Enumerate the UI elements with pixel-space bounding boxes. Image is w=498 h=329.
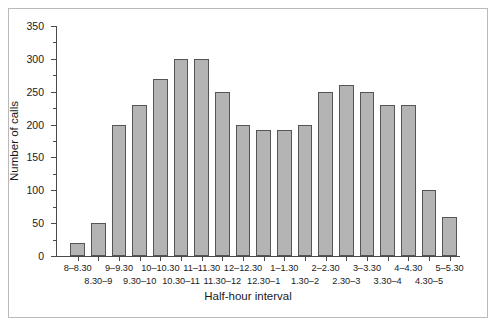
- y-tick-label: 200: [26, 119, 44, 130]
- y-tick-label: 300: [26, 54, 44, 65]
- plot-area: 050100150200250300350: [56, 26, 460, 256]
- y-tick-label: 0: [38, 251, 44, 262]
- bar: [256, 130, 270, 256]
- x-tick-label: 12.30–1: [247, 277, 280, 286]
- x-tick-label: 10.30–11: [162, 277, 200, 286]
- y-minor-tick: [53, 240, 56, 241]
- y-tick-label: 150: [26, 152, 44, 163]
- y-axis-line: [56, 26, 57, 257]
- bar: [298, 125, 312, 256]
- bar: [277, 130, 291, 256]
- y-tick: 0: [51, 256, 56, 257]
- x-axis-title: Half-hour interval: [9, 290, 487, 302]
- x-tick: [222, 256, 223, 261]
- x-tick: [181, 256, 182, 261]
- x-tick: [202, 256, 203, 261]
- chart-figure: Number of calls Half-hour interval 05010…: [8, 8, 488, 318]
- bar: [194, 59, 208, 256]
- y-tick: 200: [51, 125, 56, 126]
- x-tick-label: 2–2.30: [312, 264, 340, 273]
- bar: [318, 92, 332, 256]
- x-tick-label: 9–9.30: [105, 264, 133, 273]
- x-tick-label: 2.30–3: [332, 277, 360, 286]
- y-tick: 300: [51, 59, 56, 60]
- x-tick: [346, 256, 347, 261]
- x-tick: [160, 256, 161, 261]
- y-minor-tick: [53, 108, 56, 109]
- x-tick-label: 1.30–2: [291, 277, 319, 286]
- x-axis-line: [56, 256, 460, 257]
- x-tick: [140, 256, 141, 261]
- x-tick-label: 3.30–4: [374, 277, 402, 286]
- x-tick: [326, 256, 327, 261]
- x-tick-label: 4–4.30: [394, 264, 422, 273]
- bar: [339, 85, 353, 256]
- bar: [153, 79, 167, 256]
- x-tick-label: 12–12.30: [224, 264, 262, 273]
- y-tick: 250: [51, 92, 56, 93]
- y-minor-tick: [53, 42, 56, 43]
- x-tick-label: 1–1.30: [270, 264, 298, 273]
- bar: [380, 105, 394, 256]
- y-tick-label: 250: [26, 86, 44, 97]
- bar: [236, 125, 250, 256]
- bar: [442, 217, 456, 256]
- x-tick: [243, 256, 244, 261]
- y-tick: 100: [51, 190, 56, 191]
- y-minor-tick: [53, 174, 56, 175]
- bar: [112, 125, 126, 256]
- bar: [174, 59, 188, 256]
- x-tick-label: 9.30–10: [123, 277, 156, 286]
- x-tick: [284, 256, 285, 261]
- bar: [91, 223, 105, 256]
- bar: [70, 243, 84, 256]
- x-tick-label: 11.30–12: [204, 277, 242, 286]
- bar: [360, 92, 374, 256]
- y-minor-tick: [53, 141, 56, 142]
- y-tick-label: 100: [26, 185, 44, 196]
- y-tick-label: 350: [26, 21, 44, 32]
- bar: [215, 92, 229, 256]
- x-tick: [429, 256, 430, 261]
- x-tick-label: 4.30–5: [415, 277, 443, 286]
- x-tick-label: 8.30–9: [84, 277, 112, 286]
- x-tick: [119, 256, 120, 261]
- x-tick-label: 8–8.30: [64, 264, 92, 273]
- y-tick: 150: [51, 157, 56, 158]
- y-tick: 350: [51, 26, 56, 27]
- x-tick: [78, 256, 79, 261]
- x-tick-label: 5–5.30: [436, 264, 464, 273]
- x-tick-label: 10–10.30: [141, 264, 179, 273]
- y-minor-tick: [53, 207, 56, 208]
- x-tick: [450, 256, 451, 261]
- bar: [422, 190, 436, 256]
- x-tick: [264, 256, 265, 261]
- bar: [401, 105, 415, 256]
- x-tick: [98, 256, 99, 261]
- x-tick-label: 11–11.30: [183, 264, 220, 273]
- y-tick-label: 50: [32, 218, 44, 229]
- x-tick: [305, 256, 306, 261]
- x-tick: [388, 256, 389, 261]
- y-minor-tick: [53, 75, 56, 76]
- x-tick-label: 3–3.30: [353, 264, 381, 273]
- x-tick: [367, 256, 368, 261]
- y-tick: 50: [51, 223, 56, 224]
- bar: [132, 105, 146, 256]
- y-axis-title: Number of calls: [8, 101, 20, 181]
- x-tick: [408, 256, 409, 261]
